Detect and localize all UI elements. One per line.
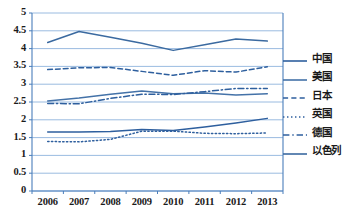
y-axis-tick-label: 2 bbox=[0, 113, 26, 124]
series-line-0 bbox=[48, 118, 268, 132]
legend-label: 德国 bbox=[312, 124, 331, 139]
y-axis-tick-label: 4 bbox=[0, 42, 26, 53]
legend-line-swatch bbox=[283, 71, 307, 81]
y-axis-tick-label: 2.5 bbox=[0, 95, 26, 106]
y-axis-tick-label: 0 bbox=[0, 184, 26, 195]
legend-label: 日本 bbox=[312, 87, 331, 102]
y-axis-tick-label: 3 bbox=[0, 77, 26, 88]
y-axis-tick-label: 3.5 bbox=[0, 59, 26, 70]
legend-label: 以色列 bbox=[312, 142, 341, 157]
series-line-3 bbox=[48, 131, 268, 142]
legend-item-4[interactable]: 德国 bbox=[283, 122, 355, 141]
legend-item-1[interactable]: 美国 bbox=[283, 67, 355, 86]
legend-line-swatch bbox=[283, 145, 307, 155]
y-axis-tick-label: 1 bbox=[0, 148, 26, 159]
series-line-1 bbox=[48, 91, 268, 101]
legend-label: 中国 bbox=[312, 50, 331, 65]
legend-item-2[interactable]: 日本 bbox=[283, 85, 355, 104]
series-line-2 bbox=[48, 67, 268, 76]
line-chart: 00.511.522.533.544.55 200620072008200920… bbox=[0, 0, 355, 215]
series-line-4 bbox=[48, 88, 268, 103]
x-axis-tick-label: 2013 bbox=[247, 196, 287, 207]
legend-line-swatch bbox=[283, 126, 307, 136]
legend-line-swatch bbox=[283, 89, 307, 99]
legend-line-swatch bbox=[283, 52, 307, 62]
legend-label: 美国 bbox=[312, 68, 331, 83]
legend-item-3[interactable]: 英国 bbox=[283, 104, 355, 123]
legend-item-5[interactable]: 以色列 bbox=[283, 141, 355, 160]
chart-legend: 中国美国日本英国德国以色列 bbox=[283, 48, 355, 159]
legend-label: 英国 bbox=[312, 105, 331, 120]
series-line-5 bbox=[48, 32, 268, 51]
y-axis-tick-label: 0.5 bbox=[0, 166, 26, 177]
legend-line-swatch bbox=[283, 108, 307, 118]
y-axis-tick-label: 1.5 bbox=[0, 131, 26, 142]
y-axis-tick-label: 5 bbox=[0, 6, 26, 17]
legend-item-0[interactable]: 中国 bbox=[283, 48, 355, 67]
y-axis-tick-label: 4.5 bbox=[0, 24, 26, 35]
